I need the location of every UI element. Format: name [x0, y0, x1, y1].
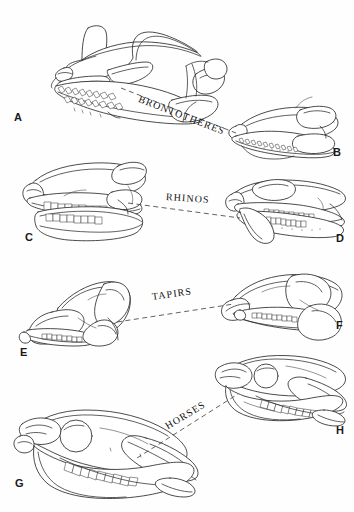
panel-letter-h: H	[336, 424, 344, 436]
skull-comparison-figure: BRONTOTHERES RHINOS TAPIRS HORSES A B C …	[0, 0, 354, 512]
skull-c-rhino	[23, 162, 147, 240]
panel-letter-a: A	[14, 111, 22, 123]
panel-letter-e: E	[20, 346, 28, 358]
skull-d-rhino	[226, 180, 346, 244]
panel-letter-f: F	[336, 319, 343, 331]
skull-g-orbit	[60, 420, 92, 452]
panel-letter-d: D	[336, 232, 344, 244]
skull-h-horse	[215, 355, 346, 426]
panel-letter-c: C	[25, 231, 33, 243]
skull-b-brontothere	[229, 97, 338, 159]
connector-rhinos	[128, 203, 240, 218]
skull-illustrations	[0, 0, 354, 512]
panel-letter-g: G	[15, 477, 24, 489]
connector-tapirs	[117, 304, 234, 322]
panel-letter-b: B	[333, 146, 341, 158]
skull-a-brontothere	[51, 26, 227, 124]
skull-e-tapir	[19, 282, 130, 346]
skull-f-tapir	[221, 274, 342, 340]
skull-h-orbit	[254, 364, 278, 388]
